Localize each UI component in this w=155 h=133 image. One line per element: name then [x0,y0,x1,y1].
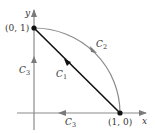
point-1-0-label: (1, 0) [108,117,132,127]
point-1-0-dot [117,110,122,115]
point-0-1-dot [31,25,36,30]
c3-y-axis-arrow-icon [31,56,37,63]
svg-text:C3: C3 [19,65,30,77]
c1-label: C1 [56,69,67,81]
curve-c1-line [34,28,120,113]
point-0-1-label: (0, 1) [5,23,29,33]
c3-x-label: C3 [65,117,76,129]
path-diagram: y x (0, 1) (1, 0) C1 C2 C3 C3 [0,0,155,133]
y-axis-label: y [24,8,31,18]
svg-text:C1: C1 [56,69,67,81]
c3-y-label: C3 [19,65,30,77]
x-axis-label: x [142,116,147,126]
svg-text:C3: C3 [65,117,76,129]
svg-text:C2: C2 [96,39,107,51]
c3-x-axis-arrow-icon [58,110,66,116]
c2-label: C2 [96,39,107,51]
